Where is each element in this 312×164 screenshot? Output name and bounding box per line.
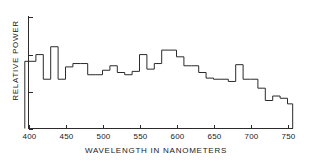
spectral-power-step-curve bbox=[25, 47, 293, 129]
x-tick-label-500: 500 bbox=[97, 132, 111, 141]
x-tick-label-600: 600 bbox=[171, 132, 185, 141]
y-axis-title: RELATIVE POWER bbox=[11, 17, 20, 105]
spectral-power-chart: 400450500550600650700750 WAVELENGTH IN N… bbox=[0, 0, 312, 164]
axes-group bbox=[29, 16, 293, 129]
x-tick-label-450: 450 bbox=[60, 132, 74, 141]
chart-plot-area: 400450500550600650700750 bbox=[0, 0, 312, 164]
x-tick-labels-group: 400450500550600650700750 bbox=[23, 132, 296, 141]
x-tick-label-550: 550 bbox=[134, 132, 148, 141]
x-tick-label-650: 650 bbox=[208, 132, 222, 141]
x-tick-label-400: 400 bbox=[23, 132, 37, 141]
x-tick-label-700: 700 bbox=[245, 132, 259, 141]
x-axis-title: WAVELENGTH IN NANOMETERS bbox=[0, 146, 312, 155]
data-series-group bbox=[25, 47, 293, 129]
tick-marks-group bbox=[29, 18, 289, 130]
x-tick-label-750: 750 bbox=[282, 132, 296, 141]
